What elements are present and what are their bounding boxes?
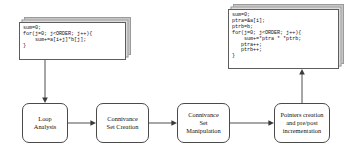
- flow-stage-connivance-set-manipulation[interactable]: Connivance Set Manipulation: [177, 103, 230, 143]
- flow-stage-label: Pointers creation and pre/post increment…: [280, 111, 323, 136]
- connector-set-creation-to-set-manipulation: [149, 120, 177, 126]
- connector-loop-analysis-to-set-creation: [68, 120, 96, 126]
- source-code-note: sum=0; for(j=0; j<ORDER; j++){ sum+=a[i+…: [19, 22, 126, 60]
- flow-stage-label: Connivance Set Manipulation: [186, 111, 220, 136]
- connector-set-manipulation-to-pointers-creation: [230, 120, 274, 126]
- flow-stage-label: Loop Analysis: [34, 115, 56, 131]
- flow-stage-connivance-set-creation[interactable]: Connivance Set Creation: [96, 103, 149, 143]
- flow-stage-loop-analysis[interactable]: Loop Analysis: [22, 103, 68, 143]
- result-code-text: sum=0; ptra=&a[i]; ptrb=b; for(j=0; j<OR…: [229, 10, 338, 60]
- connector-pointers-creation-to-result-code: [299, 69, 305, 103]
- flow-stage-label: Connivance Set Creation: [107, 115, 139, 131]
- flow-stage-pointers-creation[interactable]: Pointers creation and pre/post increment…: [274, 103, 330, 143]
- result-code-note: sum=0; ptra=&a[i]; ptrb=b; for(j=0; j<OR…: [228, 9, 339, 69]
- code-note-front-sheet: sum=0; ptra=&a[i]; ptrb=b; for(j=0; j<OR…: [228, 9, 339, 69]
- source-code-text: sum=0; for(j=0; j<ORDER; j++){ sum+=a[i+…: [20, 23, 125, 50]
- flow-diagram: sum=0; for(j=0; j<ORDER; j++){ sum+=a[i+…: [0, 0, 348, 150]
- connector-source-code-to-loop-analysis: [42, 60, 48, 103]
- code-note-front-sheet: sum=0; for(j=0; j<ORDER; j++){ sum+=a[i+…: [19, 22, 126, 60]
